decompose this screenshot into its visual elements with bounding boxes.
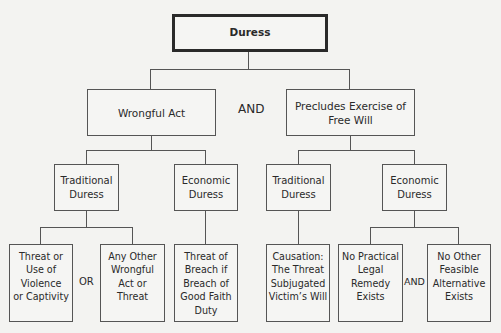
connector [205, 211, 206, 244]
leaf-line: Violence [13, 277, 69, 290]
connector [414, 211, 415, 227]
leaf-line: Any Other [108, 250, 157, 263]
connector [205, 150, 206, 164]
connector [349, 69, 350, 89]
leaf-line: Good Faith [180, 290, 231, 303]
conjunction-and-leaf: AND [404, 276, 425, 287]
leaf-line: Threat of [180, 250, 231, 263]
leaf-line: No Practical [342, 250, 399, 263]
node-label: Wrongful Act [118, 106, 185, 120]
node-label-line2: Free Will [295, 113, 406, 127]
node-traditional-duress-left: Traditional Duress [54, 164, 119, 211]
connector [151, 136, 152, 150]
connector [370, 227, 459, 228]
leaf-causation: Causation: The Threat Subjugated Victim’… [266, 244, 330, 322]
root-node-duress: Duress [172, 14, 328, 52]
conjunction-or: OR [79, 276, 94, 287]
leaf-line: Remedy [342, 277, 399, 290]
leaf-no-legal-remedy: No Practical Legal Remedy Exists [338, 244, 403, 322]
leaf-line: Breach if [180, 263, 231, 276]
leaf-line: Wrongful [108, 263, 157, 276]
leaf-line: Feasible [433, 263, 486, 276]
node-label-line2: Duress [182, 188, 230, 202]
connector [414, 150, 415, 164]
leaf-line: Alternative [433, 277, 486, 290]
connector [298, 211, 299, 244]
leaf-line: Causation: [269, 250, 327, 263]
connector [86, 150, 206, 151]
node-economic-duress-right: Economic Duress [382, 164, 447, 211]
leaf-line: Use of [13, 263, 69, 276]
node-label-line2: Duress [272, 188, 324, 202]
leaf-line: Exists [433, 290, 486, 303]
connector [150, 69, 350, 70]
node-label-line1: Economic [182, 174, 230, 188]
leaf-threat-violence-captivity: Threat or Use of Violence or Captivity [9, 244, 73, 322]
node-label-line1: Traditional [272, 174, 324, 188]
node-label-line1: Precludes Exercise of [295, 99, 406, 113]
node-economic-duress-left: Economic Duress [174, 164, 238, 211]
node-label-line1: Economic [390, 174, 438, 188]
leaf-line: Exists [342, 290, 399, 303]
node-wrongful-act: Wrongful Act [87, 89, 216, 136]
connector [458, 227, 459, 244]
node-label-line1: Traditional [60, 174, 112, 188]
connector [40, 227, 133, 228]
leaf-threat-of-breach: Threat of Breach if Breach of Good Faith… [174, 244, 238, 322]
connector [86, 150, 87, 164]
leaf-line: or Captivity [13, 290, 69, 303]
leaf-line: Breach of [180, 277, 231, 290]
node-traditional-duress-right: Traditional Duress [266, 164, 331, 211]
connector [132, 227, 133, 244]
connector [298, 150, 415, 151]
leaf-line: Threat [108, 290, 157, 303]
leaf-line: The Threat [269, 263, 327, 276]
connector [248, 52, 249, 69]
connector [370, 227, 371, 244]
connector [350, 136, 351, 150]
node-label-line2: Duress [60, 188, 112, 202]
node-precludes-free-will: Precludes Exercise of Free Will [286, 89, 415, 136]
leaf-no-other-alternative: No Other Feasible Alternative Exists [427, 244, 491, 322]
root-label: Duress [230, 26, 271, 40]
conjunction-and: AND [238, 102, 264, 116]
connector [298, 150, 299, 164]
leaf-line: Threat or [13, 250, 69, 263]
leaf-line: Duty [180, 304, 231, 317]
leaf-line: Subjugated [269, 277, 327, 290]
connector [40, 227, 41, 244]
leaf-line: Act or [108, 277, 157, 290]
leaf-line: Victim’s Will [269, 290, 327, 303]
connector [150, 69, 151, 89]
leaf-other-wrongful-act: Any Other Wrongful Act or Threat [100, 244, 165, 322]
node-label-line2: Duress [390, 188, 438, 202]
connector [86, 211, 87, 227]
leaf-line: No Other [433, 250, 486, 263]
leaf-line: Legal [342, 263, 399, 276]
